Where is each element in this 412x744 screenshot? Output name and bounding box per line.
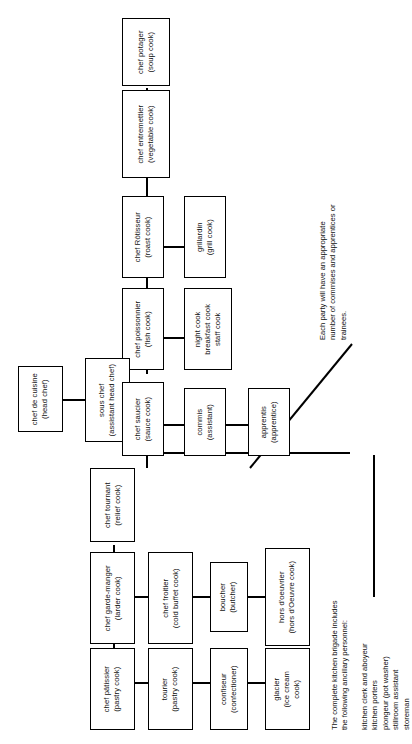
connector-poissonnier-nightstaff	[162, 337, 184, 339]
node-chef-entremettier[interactable]: chef entremettier (vegetable cook)	[122, 90, 170, 178]
node-label: sous chef (assistant head chef)	[97, 364, 117, 437]
node-chef-froitier[interactable]: chef froitier (cold buffet cook)	[148, 552, 193, 644]
connector-confiseur-glacier	[245, 682, 265, 684]
node-label: chef froitier (cold buffet cook)	[160, 568, 180, 628]
node-chef-saucier[interactable]: chef saucier (sauce cook)	[122, 382, 164, 456]
node-chef-de-cuisine[interactable]: chef de cuisine (head chef)	[18, 366, 63, 432]
node-hors-doeuvrier[interactable]: hors d'oeuvrier (hors d'Oeuvre cook)	[265, 548, 310, 646]
node-label: commis (assistant)	[195, 404, 215, 440]
node-chef-rotisseur[interactable]: chef Rôtisseur (roast cook)	[122, 196, 164, 278]
node-apprentis[interactable]: apprentis (apprentice)	[248, 388, 290, 456]
node-label: apprentis (apprentice)	[259, 401, 279, 443]
node-label: chef tournant (relief cook)	[102, 482, 122, 528]
annotation-ancillary-intro: The complete kitchen brigade includes th…	[330, 600, 351, 730]
node-chef-garde-manger[interactable]: chef garde-manger (larder cook)	[90, 552, 135, 644]
node-label: chef de cuisine (head chef)	[30, 373, 50, 425]
connector-saucier-commis	[162, 424, 184, 426]
annotation-ancillary-list: kitchen clerk and aboyeur kitchen porter…	[360, 643, 412, 730]
node-commis[interactable]: commis (assistant)	[184, 388, 226, 456]
node-label: chef pâtissier (pastry cook)	[102, 666, 122, 712]
node-label: grillardin (grill cook)	[195, 219, 215, 255]
node-label: hors d'oeuvrier (hors d'Oeuvre cook)	[277, 561, 297, 634]
connector-froitier-boucher	[190, 596, 210, 598]
node-glacier[interactable]: glacier (ice cream cook)	[265, 648, 310, 730]
node-label: chef entremettier (vegetable cook)	[136, 105, 156, 164]
node-chef-patissier[interactable]: chef pâtissier (pastry cook)	[90, 648, 135, 730]
node-night-breakfast-staff-cook[interactable]: night cook breakfast cook staff cook	[184, 288, 232, 370]
node-label: glacier (ice cream cook)	[272, 671, 303, 707]
node-chef-potager[interactable]: chef potager (soup cook)	[122, 18, 170, 86]
node-label: chef saucier (sauce cook)	[133, 397, 153, 442]
node-boucher[interactable]: boucher (butcher)	[210, 562, 248, 632]
node-label: chef poissonnier (fish cook)	[133, 301, 153, 358]
connector-boucher-horsdoeuvrier	[245, 596, 265, 598]
node-confiseur[interactable]: confiseur (confectioner)	[210, 648, 248, 730]
node-label: chef potager (soup cook)	[136, 30, 156, 73]
node-label: boucher (butcher)	[219, 581, 239, 612]
node-label: chef Rôtisseur (roast cook)	[133, 212, 153, 262]
node-tourier[interactable]: tourier (pastry cook)	[148, 648, 193, 730]
node-label: confiseur (confectioner)	[219, 665, 239, 713]
annotation-each-party: Each party will have an appropriate numb…	[318, 205, 349, 341]
connector-commis-apprentis	[226, 424, 248, 426]
node-grillardin[interactable]: grillardin (grill cook)	[184, 196, 226, 278]
ancillary-divider-rule	[373, 455, 375, 597]
node-label: tourier (pastry cook)	[160, 666, 180, 711]
node-label: chef garde-manger (larder cook)	[102, 565, 122, 631]
connector-cuisine-souschef	[63, 399, 85, 401]
org-chart-canvas: chef potager (soup cook) chef entremetti…	[0, 0, 412, 744]
node-label: night cook breakfast cook staff cook	[193, 304, 224, 355]
node-chef-tournant[interactable]: chef tournant (relief cook)	[90, 468, 135, 542]
connector-tourier-confiseur	[190, 682, 210, 684]
connector-rotisseur-grillardin	[162, 246, 184, 248]
